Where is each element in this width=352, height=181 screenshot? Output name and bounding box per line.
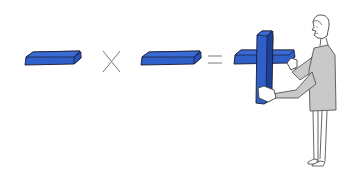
left-plank-icon bbox=[25, 51, 81, 65]
illustration-canvas bbox=[0, 0, 352, 181]
multiplication-illustration bbox=[0, 0, 352, 181]
equals-sign-icon bbox=[208, 56, 222, 63]
right-plank-icon bbox=[141, 51, 201, 65]
multiply-sign-icon bbox=[103, 51, 120, 72]
